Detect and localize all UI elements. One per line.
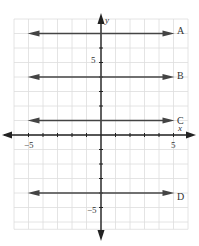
y-axis-up-arrow-icon [98,13,105,24]
line-c-left-arrow-icon [28,118,40,124]
line-b-left-arrow-icon [28,74,40,80]
line-b-right-arrow-icon [163,74,175,80]
axes [2,13,196,241]
line-label-d: D [177,191,184,202]
x-tick-label-pos5: 5 [171,140,176,150]
y-axis-down-arrow-icon [98,230,105,241]
coordinate-plane: y x −5 5 5 −5 A B C D [0,0,199,246]
line-d-right-arrow-icon [163,190,175,196]
labels: y x −5 5 5 −5 A B C D [24,15,185,215]
y-tick-label-pos5: 5 [91,55,96,65]
line-label-c: C [177,115,184,126]
line-d-left-arrow-icon [28,190,40,196]
y-tick-label-neg5: −5 [87,205,97,215]
line-a-right-arrow-icon [163,31,175,37]
line-c-right-arrow-icon [163,118,175,124]
x-axis-right-arrow-icon [186,132,196,139]
x-axis-left-arrow-icon [2,132,12,139]
line-label-a: A [177,25,185,36]
line-a-left-arrow-icon [28,31,40,37]
x-tick-label-neg5: −5 [24,140,34,150]
y-axis-label: y [104,15,109,25]
line-label-b: B [177,70,184,81]
